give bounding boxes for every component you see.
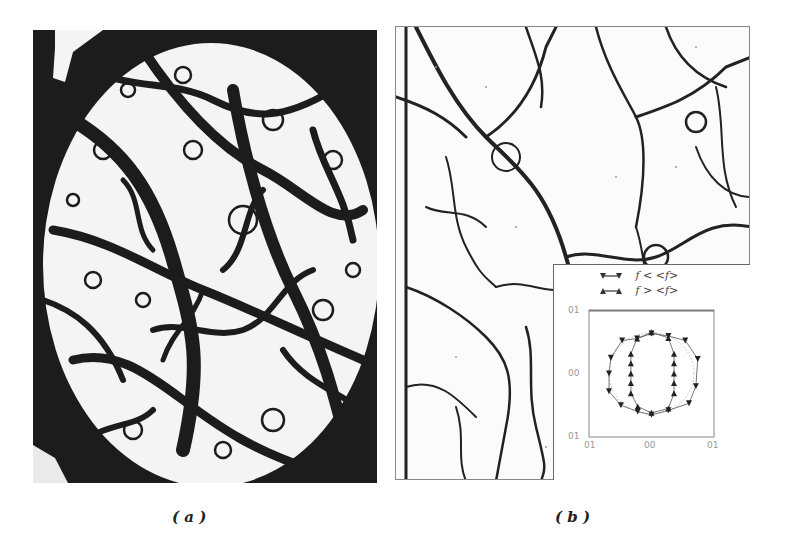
panel-a-image — [33, 30, 377, 483]
inset-plot-area — [554, 265, 751, 481]
fracture-network-image-a — [33, 30, 377, 483]
inset-polar-plot: f < <f> f > <f> 01 00 01 01 00 01 — [553, 264, 750, 480]
series-below-mean — [606, 330, 701, 417]
caption-panel-a: ( a ) — [172, 508, 206, 526]
caption-panel-b: ( b ) — [555, 508, 590, 526]
series-above-mean — [628, 329, 677, 416]
